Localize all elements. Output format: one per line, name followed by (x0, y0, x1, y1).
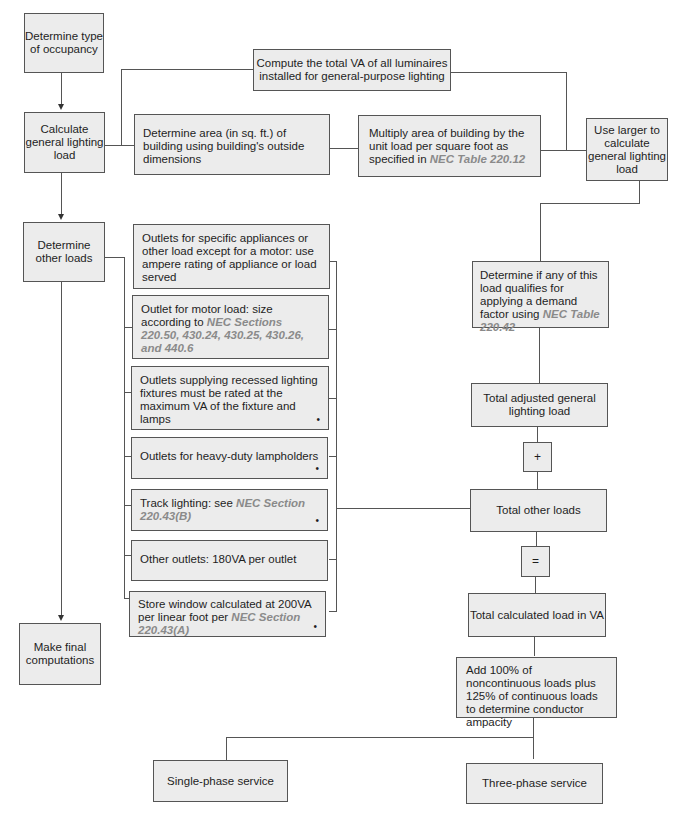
box-compute-total-va: Compute the total VA of all luminaires i… (253, 49, 451, 91)
box-demand-factor: Determine if any of this load qualifies … (472, 261, 609, 328)
tick (329, 261, 337, 262)
nec-reference: NEC Table 220.12 (430, 153, 525, 165)
box-total-calculated-load: Total calculated load in VA (468, 593, 606, 637)
connector-total-to-ampacity (534, 636, 535, 656)
box-single-phase-service: Single-phase service (153, 760, 288, 802)
plus-icon: + (534, 451, 541, 464)
connector-adjusted-to-plus (537, 426, 538, 443)
connector-up-to-compute (121, 69, 122, 146)
tick (329, 398, 337, 399)
other-load-item-store-window: Store window calculated at 200VA per lin… (129, 591, 326, 637)
connector-other-to-final (61, 282, 62, 615)
connector-to-single-phase (226, 737, 227, 761)
box-calculate-general-lighting: Calculate general lighting load (24, 112, 105, 173)
box-conductor-ampacity: Add 100% of noncontinuous loads plus 125… (456, 657, 617, 718)
box-label: Three-phase service (482, 777, 587, 790)
item-text: Outlets for specific appliances or other… (142, 232, 317, 283)
box-label: Determine type of occupancy (25, 30, 103, 56)
box-determine-area: Determine area (in sq. ft.) of building … (134, 114, 330, 175)
connector-other-to-list (105, 257, 125, 258)
connector-area-to-multiply (329, 148, 359, 149)
box-label: Determine area (in sq. ft.) of building … (143, 127, 304, 165)
box-label: Single-phase service (167, 775, 274, 788)
plus-operator: + (523, 442, 552, 472)
box-total-adjusted-lighting: Total adjusted general lighting load (471, 383, 608, 427)
box-label: Make final computations (20, 641, 100, 667)
other-load-item-motor: Outlet for motor load: size according to… (132, 295, 329, 359)
box-label: Determine other loads (24, 239, 104, 265)
other-load-item-lampholders: Outlets for heavy-duty lampholders • (131, 437, 328, 479)
box-label: Total adjusted general lighting load (472, 392, 607, 418)
box-label: Add 100% of noncontinuous loads plus 125… (466, 664, 598, 728)
item-text: Other outlets: 180VA per outlet (140, 553, 296, 565)
box-three-phase-service: Three-phase service (466, 763, 603, 804)
tick (329, 559, 337, 560)
equals-icon: = (532, 555, 539, 568)
connector-to-compute (121, 69, 253, 70)
arrow-down-icon (58, 214, 64, 220)
connector-compute-down (566, 72, 567, 150)
equals-operator: = (521, 546, 550, 577)
connector-occupancy-to-lighting (61, 72, 62, 105)
arrow-down-icon (58, 104, 64, 110)
footnote-marker: • (316, 415, 320, 425)
connector-lighting-to-area (105, 145, 135, 146)
connector-other-to-equals (536, 531, 537, 547)
connector-plus-to-other (537, 471, 538, 490)
footnote-marker: • (313, 622, 317, 632)
box-use-larger: Use larger to calculate general lighting… (586, 118, 668, 181)
box-make-final-computations: Make final computations (19, 623, 101, 685)
box-label: Total calculated load in VA (470, 609, 604, 622)
item-text: Track lighting: see (140, 497, 233, 509)
connector-demand-to-adjusted (539, 327, 540, 384)
connector-equals-to-total (535, 576, 536, 594)
footnote-marker: • (315, 516, 319, 526)
footnote-marker: • (315, 464, 319, 474)
connector-services-bar (226, 737, 534, 738)
other-load-item-recessed: Outlets supplying recessed lighting fixt… (131, 366, 329, 430)
box-determine-other-loads: Determine other loads (23, 222, 105, 282)
list-left-bracket (124, 257, 125, 599)
box-total-other-loads: Total other loads (470, 489, 607, 532)
connector-to-demand (540, 203, 541, 262)
arrow-down-icon (58, 615, 64, 621)
connector-list-to-total-other (336, 508, 470, 509)
connector-compute-right (450, 72, 567, 73)
connector-lighting-to-other (61, 172, 62, 216)
item-text: Outlets for heavy-duty lampholders (140, 450, 318, 462)
tick (329, 329, 337, 330)
box-label: Compute the total VA of all luminaires i… (254, 57, 450, 83)
tick (329, 456, 337, 457)
box-label: Calculate general lighting load (25, 123, 104, 162)
item-text: Outlets supplying recessed lighting fixt… (140, 374, 318, 425)
connector-larger-down (639, 180, 640, 204)
box-label: Use larger to calculate general lighting… (587, 124, 667, 176)
other-load-item-track-lighting: Track lighting: see NEC Section 220.43(B… (131, 489, 328, 531)
box-label: Total other loads (496, 504, 580, 517)
tick (329, 611, 337, 612)
other-load-item-appliances: Outlets for specific appliances or other… (133, 224, 330, 289)
box-determine-occupancy: Determine type of occupancy (24, 13, 104, 73)
connector-larger-left (540, 203, 640, 204)
box-multiply-area: Multiply area of building by the unit lo… (358, 115, 541, 177)
other-load-item-other-outlets: Other outlets: 180VA per outlet (131, 540, 328, 581)
